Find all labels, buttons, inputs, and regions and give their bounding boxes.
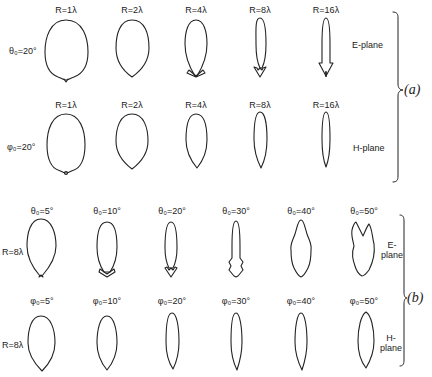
pattern-a-h-r1 [47, 114, 85, 175]
radiation-patterns [0, 0, 432, 377]
pattern-b-e-50 [352, 222, 375, 276]
pattern-b-h-20 [166, 313, 179, 369]
pattern-b-h-30 [231, 313, 242, 370]
pattern-a-e-r8 [254, 18, 266, 77]
pattern-a-h-r2 [116, 114, 148, 169]
pattern-b-e-5 [27, 219, 56, 277]
pattern-b-h-10 [97, 316, 117, 370]
pattern-a-h-r16 [322, 112, 330, 167]
pattern-b-h-5 [28, 316, 55, 371]
pattern-b-h-50 [358, 312, 374, 368]
pattern-a-h-r8 [254, 112, 267, 168]
brace-b [400, 215, 407, 366]
pattern-a-e-r2 [116, 20, 149, 77]
pattern-b-e-20 [165, 222, 177, 277]
pattern-a-e-r1 [45, 20, 88, 82]
pattern-b-e-40 [291, 220, 311, 277]
pattern-a-e-r16 [319, 18, 333, 76]
brace-a [393, 12, 403, 182]
pattern-a-h-r4 [186, 114, 207, 168]
pattern-b-e-10 [97, 222, 117, 277]
pattern-b-e-30 [229, 221, 243, 277]
pattern-a-e-r4 [185, 20, 207, 77]
pattern-b-h-40 [295, 313, 307, 370]
